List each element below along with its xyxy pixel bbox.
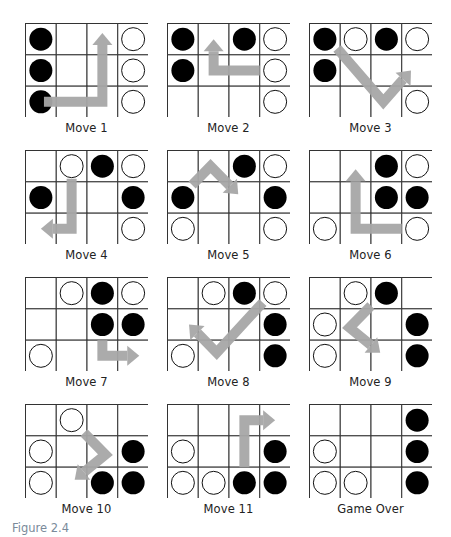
board-cell: [310, 405, 341, 436]
panel-move-1: Move 1: [25, 23, 148, 117]
board-cell: [340, 86, 371, 117]
board-cell: [26, 405, 57, 436]
panel-caption: Game Over: [309, 502, 432, 516]
white-piece-icon: [344, 471, 367, 494]
white-piece-icon: [60, 409, 83, 432]
black-piece-icon: [375, 186, 398, 209]
board-cell: [168, 278, 199, 309]
panel-move-2: Move 2: [167, 23, 290, 117]
black-piece-icon: [171, 59, 194, 82]
black-piece-icon: [264, 186, 287, 209]
white-piece-icon: [29, 471, 52, 494]
board-cell: [26, 278, 57, 309]
panel-move-10: Move 10: [25, 404, 148, 498]
panel-caption: Move 6: [309, 248, 432, 262]
black-piece-icon: [406, 440, 429, 463]
black-piece-icon: [233, 28, 256, 51]
game-board: [25, 23, 148, 117]
white-piece-icon: [171, 217, 194, 240]
board-cell: [56, 340, 87, 371]
black-piece-icon: [406, 471, 429, 494]
figure-label: Figure 2.4: [12, 521, 69, 535]
panel-caption: Move 7: [25, 375, 148, 389]
black-piece-icon: [264, 440, 287, 463]
panel-caption: Move 3: [309, 121, 432, 135]
panel-move-6: Move 6: [309, 150, 432, 244]
panel-caption: Move 1: [25, 121, 148, 135]
white-piece-icon: [264, 59, 287, 82]
white-piece-icon: [122, 217, 145, 240]
game-board: [167, 23, 290, 117]
black-piece-icon: [122, 471, 145, 494]
board-graphic: [167, 150, 290, 244]
board-cell: [56, 309, 87, 340]
black-piece-icon: [29, 59, 52, 82]
board-cell: [371, 309, 402, 340]
panel-caption: Move 5: [167, 248, 290, 262]
board-graphic: [309, 277, 432, 371]
board-cell: [56, 55, 87, 86]
white-piece-icon: [313, 471, 336, 494]
black-piece-icon: [264, 471, 287, 494]
board-cell: [118, 405, 148, 436]
game-board: [309, 150, 432, 244]
white-piece-icon: [264, 155, 287, 178]
board-cell: [26, 151, 57, 182]
game-board: [309, 277, 432, 371]
black-piece-icon: [406, 409, 429, 432]
white-piece-icon: [313, 313, 336, 336]
board-cell: [310, 151, 341, 182]
board-cell: [229, 213, 260, 244]
black-piece-icon: [264, 313, 287, 336]
panel-caption: Move 2: [167, 121, 290, 135]
board-cell: [198, 405, 229, 436]
white-piece-icon: [344, 282, 367, 305]
board-cell: [56, 436, 87, 467]
white-piece-icon: [122, 28, 145, 51]
black-piece-icon: [375, 155, 398, 178]
board-cell: [87, 405, 118, 436]
black-piece-icon: [264, 344, 287, 367]
white-piece-icon: [264, 282, 287, 305]
black-piece-icon: [375, 28, 398, 51]
black-piece-icon: [122, 313, 145, 336]
white-piece-icon: [202, 471, 225, 494]
game-board: [167, 277, 290, 371]
black-piece-icon: [313, 59, 336, 82]
board-graphic: [309, 150, 432, 244]
white-piece-icon: [313, 217, 336, 240]
board-cell: [168, 405, 199, 436]
panel-move-3: Move 3: [309, 23, 432, 117]
board-cell: [229, 86, 260, 117]
board-graphic: [25, 150, 148, 244]
black-piece-icon: [91, 155, 114, 178]
white-piece-icon: [264, 90, 287, 113]
white-piece-icon: [313, 440, 336, 463]
white-piece-icon: [202, 282, 225, 305]
board-cell: [310, 278, 341, 309]
black-piece-icon: [122, 186, 145, 209]
black-piece-icon: [29, 28, 52, 51]
game-board: [25, 150, 148, 244]
board-graphic: [167, 277, 290, 371]
panel-caption: Move 10: [25, 502, 148, 516]
white-piece-icon: [344, 28, 367, 51]
white-piece-icon: [171, 440, 194, 463]
board-cell: [229, 340, 260, 371]
white-piece-icon: [406, 28, 429, 51]
board-cell: [87, 182, 118, 213]
board-cell: [198, 436, 229, 467]
black-piece-icon: [171, 28, 194, 51]
black-piece-icon: [171, 186, 194, 209]
board-cell: [371, 467, 402, 498]
board-graphic: [25, 404, 148, 498]
black-piece-icon: [233, 471, 256, 494]
panel-move-4: Move 4: [25, 150, 148, 244]
black-piece-icon: [29, 186, 52, 209]
board-graphic: [25, 23, 148, 117]
board-cell: [371, 436, 402, 467]
white-piece-icon: [60, 282, 83, 305]
game-board: [25, 404, 148, 498]
game-board: [309, 23, 432, 117]
white-piece-icon: [264, 217, 287, 240]
